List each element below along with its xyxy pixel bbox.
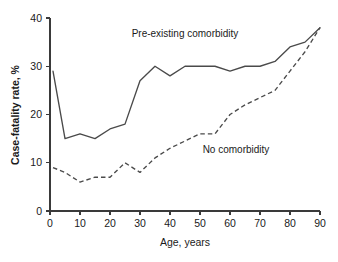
y-axis-title: Case-fatality rate, % — [9, 64, 21, 164]
annotation-label-0: Pre-existing comorbidity — [132, 28, 239, 39]
y-tick-label-30: 30 — [30, 60, 42, 72]
y-tick-label-10: 10 — [30, 156, 42, 168]
x-tick-label-10: 10 — [74, 217, 86, 229]
x-tick-label-40: 40 — [164, 217, 176, 229]
y-tick-label-40: 40 — [30, 12, 42, 24]
x-axis-tick-labels: 0102030405060708090 — [47, 217, 326, 229]
y-tick-label-20: 20 — [30, 108, 42, 120]
y-axis: 010203040 Case-fatality rate, % — [9, 12, 50, 217]
x-tick-label-60: 60 — [224, 217, 236, 229]
x-axis-title: Age, years — [160, 236, 210, 248]
x-tick-label-0: 0 — [47, 217, 53, 229]
case-fatality-rate-line-chart: 010203040 Case-fatality rate, % 01020304… — [0, 0, 338, 262]
chart-figure: 010203040 Case-fatality rate, % 01020304… — [0, 0, 338, 262]
y-axis-tick-labels: 010203040 — [30, 12, 42, 217]
x-tick-label-70: 70 — [254, 217, 266, 229]
x-tick-label-20: 20 — [104, 217, 116, 229]
x-axis-ticks — [50, 211, 320, 215]
series-line-no-comorbidity — [53, 28, 320, 182]
annotation-label-1: No comorbidity — [203, 144, 270, 155]
data-series-group — [53, 28, 320, 182]
x-axis: 0102030405060708090 Age, years — [47, 211, 326, 248]
x-tick-label-80: 80 — [284, 217, 296, 229]
x-tick-label-90: 90 — [314, 217, 326, 229]
x-tick-label-50: 50 — [194, 217, 206, 229]
y-axis-ticks — [46, 18, 50, 211]
x-tick-label-30: 30 — [134, 217, 146, 229]
y-tick-label-0: 0 — [36, 205, 42, 217]
series-annotations: Pre-existing comorbidityNo comorbidity — [132, 28, 270, 155]
